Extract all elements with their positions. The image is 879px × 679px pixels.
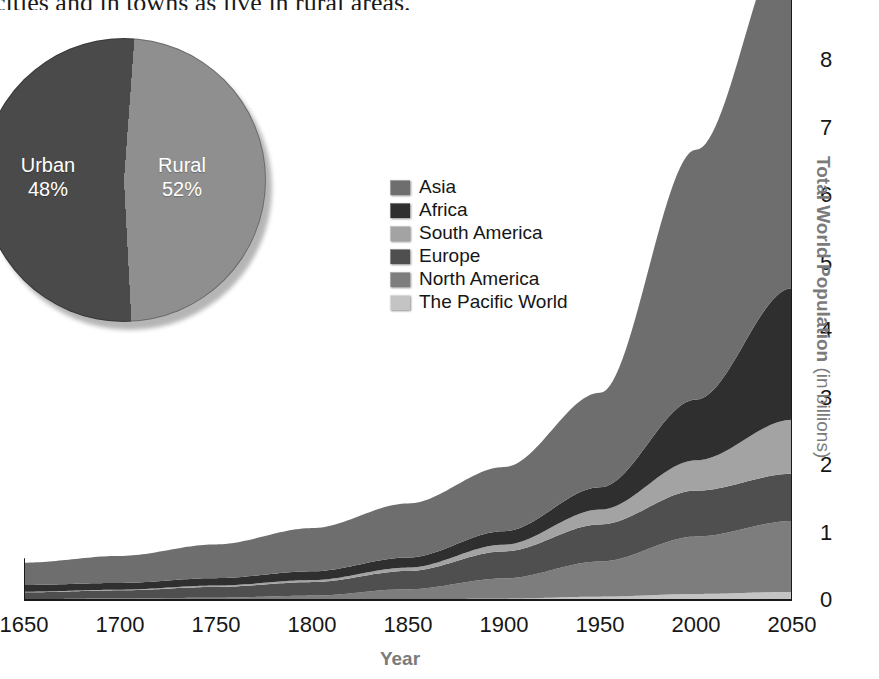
y-tick-8: 8 (820, 49, 846, 71)
chart-legend: Asia Africa South America Europe North A… (390, 176, 620, 314)
legend-swatch-north-america (390, 272, 410, 287)
legend-label-north-america: North America (419, 268, 539, 290)
legend-label-asia: Asia (419, 176, 456, 198)
legend-swatch-south-america (390, 226, 410, 241)
x-tick-1750: 1750 (176, 612, 256, 638)
legend-item-africa[interactable]: Africa (390, 199, 620, 221)
legend-swatch-africa (390, 203, 410, 218)
y-axis-title-unit: (in billions) (813, 362, 834, 458)
y-axis-title-main: Total World Population (813, 156, 834, 362)
x-tick-1650: 1650 (0, 612, 64, 638)
legend-swatch-europe (390, 249, 410, 264)
x-tick-1700: 1700 (80, 612, 160, 638)
legend-label-europe: Europe (419, 245, 480, 267)
y-tick-7: 7 (820, 117, 846, 139)
y-tick-1: 1 (820, 522, 846, 544)
legend-item-north-america[interactable]: North America (390, 268, 620, 290)
legend-item-asia[interactable]: Asia (390, 176, 620, 198)
y-tick-0: 0 (820, 589, 846, 611)
x-tick-1950: 1950 (560, 612, 640, 638)
x-tick-1850: 1850 (368, 612, 448, 638)
x-axis-title: Year (0, 648, 800, 670)
legend-item-europe[interactable]: Europe (390, 245, 620, 267)
x-tick-1800: 1800 (272, 612, 352, 638)
y-axis-title: Total World Population (in billions) (810, 156, 836, 486)
x-tick-2000: 2000 (656, 612, 736, 638)
legend-label-south-america: South America (419, 222, 543, 244)
legend-swatch-pacific-world (390, 295, 410, 310)
legend-swatch-asia (390, 180, 410, 195)
x-axis-ticks: 165017001750180018501900195020002050 (0, 612, 800, 642)
chart-page: cities and in towns as live in rural are… (0, 0, 879, 679)
legend-item-pacific-world[interactable]: The Pacific World (390, 291, 620, 313)
legend-item-south-america[interactable]: South America (390, 222, 620, 244)
legend-label-pacific-world: The Pacific World (419, 291, 568, 313)
legend-label-africa: Africa (419, 199, 468, 221)
x-tick-2050: 2050 (752, 612, 832, 638)
x-tick-1900: 1900 (464, 612, 544, 638)
